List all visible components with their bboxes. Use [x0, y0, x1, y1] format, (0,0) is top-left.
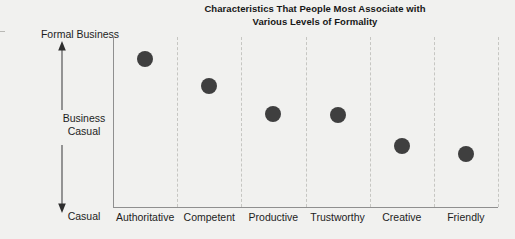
plot-area — [113, 37, 498, 207]
gridline — [370, 37, 371, 207]
y-axis-line — [113, 37, 114, 207]
gridline — [177, 37, 178, 207]
gridline — [434, 37, 435, 207]
data-point-authoritative[interactable] — [137, 51, 153, 67]
chart-title-line-2: Various Levels of Formality — [150, 16, 480, 29]
gridline — [306, 37, 307, 207]
x-axis-line — [113, 207, 498, 208]
chart-title: Characteristics That People Most Associa… — [150, 3, 480, 28]
x-axis-label-creative: Creative — [382, 210, 421, 224]
gridline — [498, 37, 499, 207]
x-axis-label-productive: Productive — [249, 210, 299, 224]
data-point-creative[interactable] — [394, 138, 410, 154]
formality-dot-chart: Characteristics That People Most Associa… — [0, 0, 515, 239]
chart-title-line-1: Characteristics That People Most Associa… — [150, 3, 480, 16]
x-axis-label-trustworthy: Trustworthy — [310, 210, 364, 224]
edge-artifact — [0, 31, 5, 32]
data-point-competent[interactable] — [201, 78, 217, 94]
x-axis-label-competent: Competent — [184, 210, 235, 224]
gridline — [241, 37, 242, 207]
data-point-friendly[interactable] — [458, 146, 474, 162]
data-point-trustworthy[interactable] — [330, 107, 346, 123]
x-axis-label-authoritative: Authoritative — [116, 210, 174, 224]
x-axis-category-labels: AuthoritativeCompetentProductiveTrustwor… — [113, 210, 503, 232]
formality-double-arrow-icon — [30, 28, 110, 233]
x-axis-label-friendly: Friendly — [447, 210, 484, 224]
data-point-productive[interactable] — [265, 106, 281, 122]
formality-scale-axis: Formal Business Business Casual Casual — [30, 28, 110, 233]
